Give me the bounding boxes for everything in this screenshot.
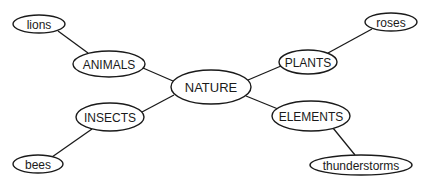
node-roses: roses	[365, 13, 417, 31]
node-lions: lions	[13, 15, 65, 33]
node-plants: PLANTS	[279, 50, 337, 74]
concept-map-diagram: NATUREANIMALSINSECTSPLANTSELEMENTSlionsb…	[0, 0, 422, 183]
node-label-animals: ANIMALS	[83, 58, 136, 72]
node-insects: INSECTS	[76, 103, 144, 131]
node-label-elements: ELEMENTS	[279, 110, 344, 124]
node-label-nature: NATURE	[185, 80, 238, 95]
node-label-insects: INSECTS	[84, 111, 136, 125]
node-animals: ANIMALS	[73, 51, 145, 77]
node-elements: ELEMENTS	[272, 101, 350, 131]
node-label-lions: lions	[27, 18, 52, 32]
node-label-plants: PLANTS	[285, 56, 332, 70]
node-label-bees: bees	[25, 158, 51, 172]
node-label-thunderstorms: thunderstorms	[323, 159, 400, 173]
node-label-roses: roses	[376, 16, 405, 30]
node-bees: bees	[13, 155, 63, 173]
node-thunderstorms: thunderstorms	[310, 155, 412, 175]
node-nature: NATURE	[171, 70, 251, 104]
